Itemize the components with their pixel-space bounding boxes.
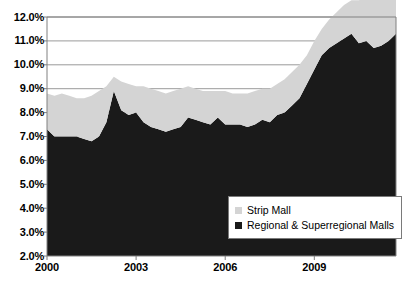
x-tick-label: 2009 — [289, 262, 339, 273]
legend-label-strip-mall: Strip Mall — [247, 205, 291, 216]
legend-swatch-regional-malls — [235, 222, 242, 229]
x-tick-label: 2003 — [111, 262, 161, 273]
x-tick-label: 2006 — [200, 262, 250, 273]
legend-swatch-strip-mall — [235, 207, 242, 214]
legend-label-regional-malls: Regional & Superregional Malls — [247, 220, 394, 231]
legend-item-strip-mall: Strip Mall — [235, 203, 394, 217]
chart-legend: Strip Mall Regional & Superregional Mall… — [228, 196, 402, 239]
x-tick-label: 2000 — [22, 262, 72, 273]
legend-item-regional-malls: Regional & Superregional Malls — [235, 218, 394, 232]
